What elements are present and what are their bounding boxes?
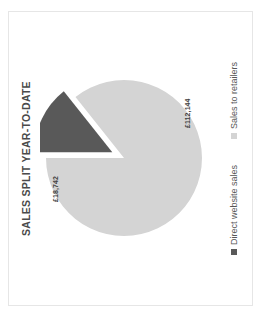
legend-label-sales-to-retailers: Sales to retailers (229, 62, 239, 129)
chart-page: SALES SPLIT YEAR-TO-DATE £18,742 £112,14… (0, 0, 261, 318)
pie-svg (40, 75, 208, 243)
legend-item-sales-to-retailers[interactable]: Sales to retailers (229, 62, 239, 139)
pie-chart (40, 75, 208, 243)
pie-data-label-direct-website-sales: £18,742 (52, 176, 59, 202)
rotated-chart-stage: SALES SPLIT YEAR-TO-DATE £18,742 £112,14… (8, 11, 253, 306)
legend-item-direct-website-sales[interactable]: Direct website sales (229, 165, 239, 255)
legend-swatch-icon-sales-to-retailers (231, 133, 237, 139)
legend-label-direct-website-sales: Direct website sales (229, 165, 239, 245)
chart-title: SALES SPLIT YEAR-TO-DATE (20, 11, 32, 306)
pie-data-label-sales-to-retailers: £112,144 (184, 98, 191, 128)
legend-swatch-icon-direct-website-sales (231, 249, 237, 255)
chart-legend: Direct website sales Sales to retailers (229, 11, 239, 306)
chart-frame: SALES SPLIT YEAR-TO-DATE £18,742 £112,14… (8, 11, 253, 306)
plot-area: £18,742 £112,144 (34, 11, 214, 306)
